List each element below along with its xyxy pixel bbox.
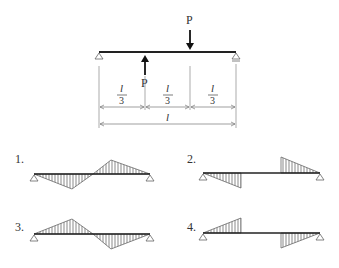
left-support-icon xyxy=(95,53,103,59)
support-icon xyxy=(30,175,38,181)
option-1-diagram[interactable]: 1. xyxy=(15,152,154,189)
support-icon xyxy=(146,175,154,181)
svg-text:l: l xyxy=(211,82,214,94)
support-icon xyxy=(146,235,154,241)
force-down-label: P xyxy=(186,13,193,27)
segment-label-1: l 3 xyxy=(117,82,127,106)
option-1-label: 1. xyxy=(15,152,24,166)
svg-text:l: l xyxy=(120,82,123,94)
right-support-icon xyxy=(232,53,240,59)
force-up-label: P xyxy=(141,76,148,90)
option-2-diagram[interactable]: 2. xyxy=(187,152,324,188)
svg-text:3: 3 xyxy=(210,95,215,106)
option-2-label: 2. xyxy=(187,152,196,166)
option-3-label: 3. xyxy=(15,220,24,234)
svg-text:3: 3 xyxy=(119,95,124,106)
force-up-arrow xyxy=(141,55,149,62)
loaded-beam-diagram: P P l 3 xyxy=(95,13,240,128)
option-3-diagram[interactable]: 3. xyxy=(15,219,154,249)
support-icon xyxy=(316,174,324,180)
beam-diagram-canvas: P P l 3 xyxy=(0,0,339,268)
support-icon xyxy=(316,234,324,240)
support-icon xyxy=(199,174,207,180)
segment-label-3: l 3 xyxy=(208,82,218,106)
option-4-label: 4. xyxy=(187,220,196,234)
svg-text:3: 3 xyxy=(165,95,170,106)
support-icon xyxy=(199,234,207,240)
svg-text:l: l xyxy=(166,82,169,94)
total-length-label: l xyxy=(166,111,169,123)
support-icon xyxy=(30,235,38,241)
segment-label-2: l 3 xyxy=(163,82,173,106)
option-4-diagram[interactable]: 4. xyxy=(187,218,324,248)
